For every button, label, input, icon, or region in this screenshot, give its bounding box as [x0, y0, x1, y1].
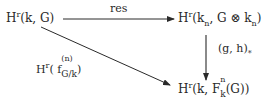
diagonal-label-open: ( f [49, 63, 61, 76]
diagonal-label: Hr( f(n)G/k) [36, 64, 81, 75]
diagonal-label-sup: r [46, 61, 50, 70]
node-top-right-mid: , G ⊗ k [209, 11, 251, 25]
gh-label-sub: * [248, 49, 252, 58]
node-bottom-right-sup-n: n [220, 76, 225, 84]
node-top-right-close: ) [257, 11, 262, 25]
gh-label: (g, h)* [218, 43, 252, 54]
node-bottom-right-sup: r [188, 81, 192, 90]
node-top-right: Hr(kn, G ⊗ kn) [178, 12, 261, 24]
node-top-right-sup: r [188, 10, 192, 19]
node-top-left: Hr(k, G) [6, 12, 54, 24]
node-top-left-H: H [6, 11, 16, 25]
diagonal-label-close: ) [77, 63, 81, 76]
node-top-right-H: H [178, 11, 188, 25]
node-top-left-args: (k, G) [20, 11, 54, 25]
node-top-right-sub2: n [252, 19, 257, 28]
gh-label-main: (g, h) [218, 42, 248, 55]
node-bottom-right-open: (k, F [192, 82, 220, 96]
diagonal-label-H: H [36, 63, 46, 76]
node-top-right-open: (k [192, 11, 204, 25]
diagonal-label-stack: (n)G/k [61, 64, 77, 75]
node-bottom-right-stack: nk [220, 83, 225, 95]
res-label: res [110, 3, 127, 14]
node-top-left-sup: r [16, 10, 20, 19]
node-bottom-right-H: H [178, 82, 188, 96]
node-bottom-right: Hr(k, Fnk(G)) [178, 83, 249, 95]
node-bottom-right-sub-k: k [220, 89, 225, 99]
node-bottom-right-close: (G)) [226, 82, 250, 96]
diagonal-label-subscript: G/k [61, 69, 77, 79]
node-top-right-sub1: n [204, 19, 209, 28]
diagonal-label-superscript: (n) [61, 55, 72, 63]
